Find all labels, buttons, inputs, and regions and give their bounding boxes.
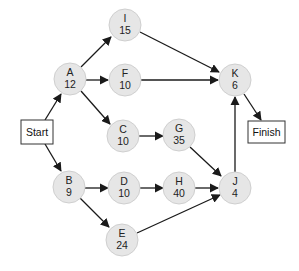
node-e: E 24 [106,224,138,256]
node-i: I 15 [109,9,141,41]
finish-node: Finish [248,121,285,143]
node-a: A 12 [54,63,86,95]
node-c: C 10 [107,120,139,152]
edge-a-c [81,91,110,124]
node-c-id: C [119,123,127,135]
node-k-id: K [231,67,238,79]
node-c-duration: 10 [117,135,129,147]
finish-label: Finish [252,126,280,138]
start-label: Start [26,126,48,138]
node-b: B 9 [53,171,85,203]
node-k: K 6 [219,64,251,96]
edge-k-finish [244,94,261,120]
node-i-duration: 15 [119,24,131,36]
node-j-id: J [232,175,237,187]
node-d-id: D [120,175,128,187]
edge-a-i [81,37,111,67]
node-g-duration: 35 [173,134,185,146]
node-f: F 10 [109,64,141,96]
start-node: Start [21,120,53,144]
edge-g-j [190,147,221,176]
node-g: G 35 [163,119,195,151]
node-f-duration: 10 [119,79,131,91]
node-h-duration: 40 [173,187,185,199]
node-a-duration: 12 [64,78,76,90]
node-d-duration: 10 [118,187,130,199]
edge-start-b [45,144,61,171]
node-j: J 4 [219,172,251,204]
network-diagram: Start Finish A 12 B 9 C 10 D 10 E 24 F 1… [0,0,299,271]
node-a-id: A [66,66,73,78]
node-i-id: I [124,12,127,24]
node-e-duration: 24 [116,239,128,251]
node-e-id: E [118,227,125,239]
node-g-id: G [175,122,183,134]
node-f-id: F [122,67,128,79]
edge-i-k [140,32,219,72]
edge-b-e [80,198,109,227]
node-j-duration: 4 [232,187,238,199]
node-h: H 40 [163,172,195,204]
node-k-duration: 6 [232,79,238,91]
node-b-id: B [65,174,72,186]
edge-start-a [45,94,61,120]
node-d: D 10 [108,172,140,204]
node-b-duration: 9 [66,186,72,198]
node-h-id: H [175,175,183,187]
